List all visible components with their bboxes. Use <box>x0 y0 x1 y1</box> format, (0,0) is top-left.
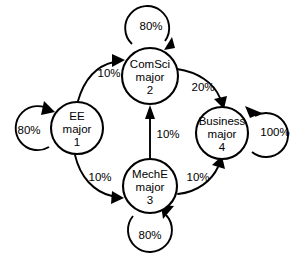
node-business-label-line1: Business <box>199 115 246 127</box>
self-loop-meche-label: 80% <box>138 229 161 241</box>
node-meche-label-line1: MechE <box>132 168 168 180</box>
node-business-label-line2: major <box>208 128 237 140</box>
edge-comsci-to-business-label: 20% <box>191 81 214 93</box>
node-comsci-label-line3: 2 <box>147 84 153 96</box>
edge-ee-to-meche: 10% <box>75 155 124 204</box>
self-loop-business: 100% <box>245 106 290 157</box>
state-transition-diagram: 80% 80% 80% 100% 10% <box>0 0 307 266</box>
self-loop-business-arrowhead <box>245 106 262 118</box>
self-loop-ee: 80% <box>16 101 55 150</box>
node-ee-label-line3: 1 <box>74 136 80 148</box>
self-loop-ee-label: 80% <box>17 124 40 136</box>
edge-ee-to-comsci-label: 10% <box>97 67 120 79</box>
node-comsci-label-line2: major <box>136 71 165 83</box>
edge-meche-to-comsci-arrowhead <box>145 105 155 119</box>
node-meche-label-line2: major <box>136 181 165 193</box>
node-ee[interactable]: EE major 1 <box>51 102 103 154</box>
node-business-label-line3: 4 <box>219 141 226 153</box>
node-meche[interactable]: MechE major 3 <box>123 159 177 213</box>
edge-ee-to-comsci-arrowhead <box>112 54 125 67</box>
self-loop-business-label: 100% <box>260 126 289 138</box>
self-loop-comsci-label: 80% <box>139 20 162 32</box>
node-meche-label-line3: 3 <box>147 194 153 206</box>
edge-comsci-to-business: 20% <box>177 69 227 109</box>
node-comsci[interactable]: ComSci major 2 <box>122 48 178 104</box>
edge-ee-to-meche-arrowhead <box>111 191 124 204</box>
edge-ee-to-comsci: 10% <box>78 54 125 101</box>
edge-ee-to-meche-label: 10% <box>88 171 111 183</box>
diagram-canvas: 80% 80% 80% 100% 10% <box>0 0 307 266</box>
node-business[interactable]: Business major 4 <box>196 107 248 159</box>
node-comsci-label-line1: ComSci <box>130 58 170 70</box>
edge-meche-to-business-label: 10% <box>186 171 209 183</box>
self-loop-comsci: 80% <box>125 6 175 50</box>
self-loop-ee-arrowhead <box>41 101 55 115</box>
edge-meche-to-business: 10% <box>178 156 225 194</box>
node-ee-label-line1: EE <box>69 110 85 122</box>
node-ee-label-line2: major <box>63 123 92 135</box>
edge-meche-to-comsci-label: 10% <box>156 128 179 140</box>
edge-meche-to-comsci: 10% <box>145 105 180 159</box>
